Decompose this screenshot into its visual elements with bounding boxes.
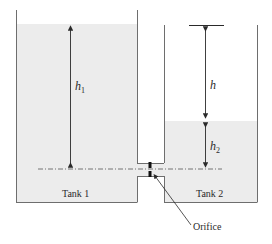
two-tank-diagram: h1 h h2 Tank 1 Tank 2 Orifice xyxy=(0,0,272,244)
tank1-water xyxy=(16,24,137,202)
orifice-label: Orifice xyxy=(193,221,222,232)
orifice-plate-top xyxy=(149,162,152,168)
orifice-plate-bottom xyxy=(149,171,152,177)
tank2-label: Tank 2 xyxy=(196,188,223,199)
tank1-label: Tank 1 xyxy=(62,188,89,199)
h-label: h xyxy=(210,78,216,92)
